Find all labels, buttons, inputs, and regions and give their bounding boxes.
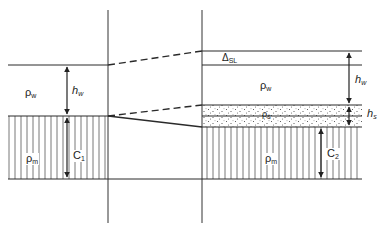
left-water-density-label: ρw [25,87,36,99]
connectors [108,51,202,179]
sea-level-rise-dashed [108,51,202,65]
sea-level-change-label: ΔSL [222,53,237,64]
left-water-thickness-label: hw [72,85,83,97]
sediment-top-dashed [108,105,202,116]
left-mantle-density-label: ρm [25,153,39,165]
basement-subsidence-line [108,116,202,127]
right-water-density-label: ρw [260,80,271,92]
right-mantle-thickness-label: C2 [326,148,340,160]
sediment-thickness-label: hs [367,108,377,120]
left-mantle-thickness-label: C1 [72,150,86,162]
isostasy-diagram [0,0,382,232]
sediment-density-label: ρs [262,110,271,120]
right-mantle-density-label: ρm [264,153,278,165]
right-water-thickness-label: hw [355,74,366,86]
left-panel [8,65,108,179]
left-mantle-hatch [8,116,108,179]
